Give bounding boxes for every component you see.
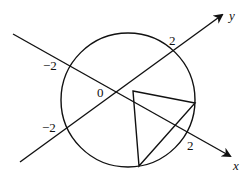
y-axis-label: y [227, 8, 235, 23]
origin-label: 0 [97, 85, 104, 100]
x-tick-positive-label: 2 [187, 138, 194, 153]
x-tick-negative-label: −2 [43, 58, 57, 73]
x-axis-line [13, 34, 230, 156]
x-axis-label: x [232, 158, 239, 173]
y-tick-negative-label: −2 [42, 120, 56, 135]
y-tick-positive-label: 2 [169, 33, 176, 48]
triangle [133, 91, 195, 166]
coordinate-diagram: y x 0 2 −2 −2 2 [0, 0, 249, 178]
circle [61, 33, 195, 167]
